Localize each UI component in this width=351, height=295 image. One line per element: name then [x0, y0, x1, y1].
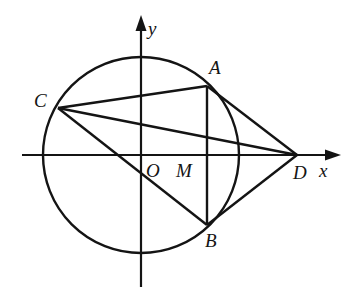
- x-axis-label: x: [319, 161, 327, 180]
- origin-label: O: [146, 161, 160, 180]
- segment-CA: [58, 86, 207, 108]
- point-label-m: M: [176, 161, 192, 180]
- geometry-figure: A B C D M O x y: [0, 0, 351, 295]
- segment-BD: [207, 155, 297, 225]
- y-axis-label: y: [148, 19, 156, 38]
- point-label-b: B: [205, 231, 217, 250]
- point-label-a: A: [209, 58, 221, 77]
- segment-AD: [207, 86, 297, 155]
- segment-CD: [58, 108, 297, 155]
- y-axis-arrow-icon: [136, 15, 147, 31]
- geometry-canvas: [0, 0, 351, 295]
- x-axis-arrow-icon: [325, 150, 341, 161]
- point-label-d: D: [293, 163, 307, 182]
- point-label-c: C: [34, 91, 47, 110]
